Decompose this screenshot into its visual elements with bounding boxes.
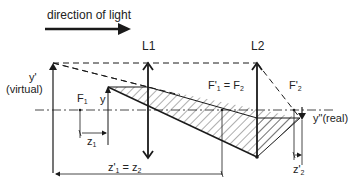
direction-of-light-label: direction of light bbox=[47, 9, 131, 21]
y-label: y bbox=[100, 94, 106, 105]
lens-l1-label: L1 bbox=[142, 40, 155, 52]
z1-label: z1 bbox=[87, 136, 96, 148]
virtual-image-arrow bbox=[49, 63, 57, 173]
diagram-graphics bbox=[0, 0, 363, 188]
f1p-eq-f2-label: F'1 = F2 bbox=[208, 80, 244, 92]
z2p-label: z'2 bbox=[293, 164, 305, 176]
virtual-label: (virtual) bbox=[6, 84, 43, 95]
y-double-prime-real-label: y"(real) bbox=[313, 113, 348, 124]
direction-arrow bbox=[45, 23, 131, 35]
f2p-label: F'2 bbox=[289, 80, 302, 92]
optics-diagram: direction of light L1 L2 y' (virtual) F1… bbox=[0, 0, 363, 188]
f1-label: F1 bbox=[77, 93, 88, 105]
y-prime-label: y' bbox=[29, 72, 37, 83]
lens-l1 bbox=[143, 63, 153, 158]
z1p-eq-z2-label: z'1 = z2 bbox=[108, 162, 141, 174]
lens-l2-label: L2 bbox=[251, 40, 264, 52]
